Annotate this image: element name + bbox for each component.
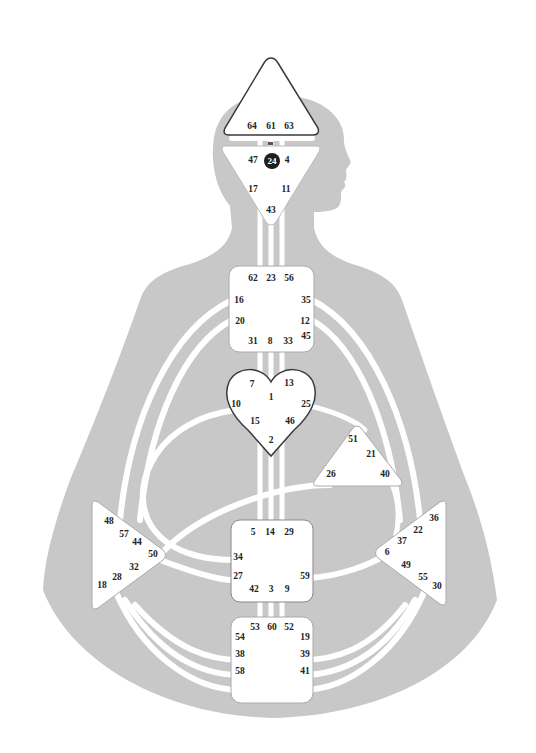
gate-44[interactable]: 44 [132, 538, 142, 548]
gate-51[interactable]: 51 [348, 435, 358, 445]
gate-4[interactable]: 4 [285, 156, 290, 166]
gate-24[interactable]: 24 [264, 153, 280, 169]
gate-62[interactable]: 62 [248, 274, 258, 284]
gate-63[interactable]: 63 [284, 122, 294, 132]
gate-23[interactable]: 23 [266, 274, 276, 284]
head-ajna-marker [268, 142, 273, 145]
gate-5[interactable]: 5 [251, 528, 256, 538]
gate-30[interactable]: 30 [432, 582, 442, 592]
gate-56[interactable]: 56 [284, 274, 294, 284]
gate-18[interactable]: 18 [97, 581, 107, 591]
gate-11[interactable]: 11 [282, 185, 291, 195]
gate-37[interactable]: 37 [397, 537, 407, 547]
gate-57[interactable]: 57 [119, 530, 129, 540]
gate-10[interactable]: 10 [231, 400, 241, 410]
gate-47[interactable]: 47 [248, 156, 258, 166]
gate-9[interactable]: 9 [285, 585, 290, 595]
gate-25[interactable]: 25 [301, 400, 311, 410]
gate-49[interactable]: 49 [401, 561, 411, 571]
gate-7[interactable]: 7 [250, 380, 255, 390]
gate-43[interactable]: 43 [266, 206, 276, 216]
gate-58[interactable]: 58 [235, 667, 245, 677]
gate-12[interactable]: 12 [300, 317, 310, 327]
gate-19[interactable]: 19 [300, 633, 310, 643]
gate-8[interactable]: 8 [268, 337, 273, 347]
gate-15[interactable]: 15 [250, 417, 260, 427]
gate-40[interactable]: 40 [380, 470, 390, 480]
gate-54[interactable]: 54 [235, 633, 245, 643]
gate-16[interactable]: 16 [234, 296, 244, 306]
gate-42[interactable]: 42 [249, 585, 259, 595]
gate-17[interactable]: 17 [248, 185, 258, 195]
gate-55[interactable]: 55 [418, 573, 428, 583]
gate-52[interactable]: 52 [284, 623, 294, 633]
gate-22[interactable]: 22 [413, 526, 423, 536]
gate-32[interactable]: 32 [129, 563, 139, 573]
gate-3[interactable]: 3 [269, 585, 274, 595]
gate-33[interactable]: 33 [283, 337, 293, 347]
bodygraph-svg [0, 0, 536, 753]
gate-50[interactable]: 50 [148, 550, 158, 560]
gate-27[interactable]: 27 [233, 572, 243, 582]
bodygraph: 6461634724417114362235616352012453183371… [0, 0, 536, 753]
gate-26[interactable]: 26 [326, 470, 336, 480]
gate-45[interactable]: 45 [301, 332, 311, 342]
gate-38[interactable]: 38 [235, 650, 245, 660]
gate-14[interactable]: 14 [265, 528, 275, 538]
gate-46[interactable]: 46 [285, 417, 295, 427]
gate-61[interactable]: 61 [266, 122, 276, 132]
gate-64[interactable]: 64 [247, 122, 257, 132]
gate-1[interactable]: 1 [269, 393, 274, 403]
gate-41[interactable]: 41 [300, 667, 310, 677]
gate-48[interactable]: 48 [104, 517, 114, 527]
gate-31[interactable]: 31 [248, 337, 258, 347]
gate-29[interactable]: 29 [284, 528, 294, 538]
gate-39[interactable]: 39 [300, 650, 310, 660]
gate-36[interactable]: 36 [429, 514, 439, 524]
gate-2[interactable]: 2 [269, 436, 274, 446]
gate-21[interactable]: 21 [366, 450, 376, 460]
gate-34[interactable]: 34 [233, 553, 243, 563]
gate-20[interactable]: 20 [235, 317, 245, 327]
gate-59[interactable]: 59 [300, 572, 310, 582]
gate-60[interactable]: 60 [267, 623, 277, 633]
gate-6[interactable]: 6 [385, 548, 390, 558]
gate-13[interactable]: 13 [284, 379, 294, 389]
gate-53[interactable]: 53 [250, 623, 260, 633]
gate-28[interactable]: 28 [112, 573, 122, 583]
gate-35[interactable]: 35 [301, 296, 311, 306]
